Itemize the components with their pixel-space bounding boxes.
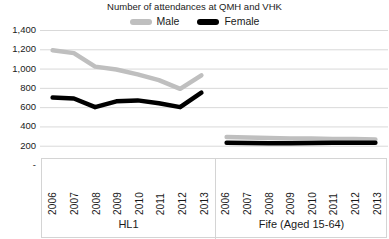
- x-axis-tick-label: 2012: [177, 192, 188, 215]
- x-axis-tick-label: 2008: [264, 192, 275, 215]
- x-axis-tick: 2007: [64, 159, 86, 215]
- y-axis-tick-label: 1,200: [12, 44, 36, 54]
- legend-swatch-female-icon: [197, 19, 219, 25]
- x-axis-tick: 2010: [302, 159, 324, 215]
- chart-legend: Male Female: [0, 15, 389, 28]
- x-axis-year-row: 20062007200820092010201120122013: [42, 159, 215, 215]
- x-axis-tick-label: 2007: [242, 192, 253, 215]
- x-axis-tick: 2007: [237, 159, 259, 215]
- x-axis-tick: 2009: [280, 159, 302, 215]
- x-axis-tick: 2006: [42, 159, 64, 215]
- legend-label-female: Female: [224, 15, 259, 28]
- x-axis-year-row: 20062007200820092010201120122013: [215, 159, 388, 215]
- x-axis-tick-label: 2010: [307, 192, 318, 215]
- x-axis-tick-label: 2006: [47, 192, 58, 215]
- x-axis-tick-label: 2013: [199, 192, 210, 215]
- x-axis-tick: 2013: [366, 159, 388, 215]
- legend-item-female[interactable]: Female: [197, 15, 259, 28]
- x-axis-tick: 2011: [323, 159, 345, 215]
- x-axis-tick-label: 2010: [134, 192, 145, 215]
- y-axis-tick-label: -: [33, 160, 36, 170]
- x-axis-label-box: 20062007200820092010201120122013HL120062…: [41, 158, 387, 238]
- legend-swatch-male-icon: [130, 19, 152, 25]
- x-axis-tick-label: 2007: [69, 192, 80, 215]
- chart-title: Number of attendances at QMH and VHK: [0, 1, 389, 13]
- x-axis-tick: 2011: [150, 159, 172, 215]
- y-axis-tick-label: 800: [20, 83, 36, 93]
- x-axis-group-label: Fife (Aged 15-64): [215, 217, 388, 231]
- y-axis-tick-label: 1,000: [12, 64, 36, 74]
- y-axis-tick-label: 200: [20, 141, 36, 151]
- x-axis-group-divider: [215, 159, 216, 239]
- x-axis-tick-label: 2012: [350, 192, 361, 215]
- series-line-female-fife-aged-15-64: [227, 143, 376, 144]
- x-axis-tick-label: 2009: [285, 192, 296, 215]
- plot-area: [40, 30, 388, 165]
- legend-label-male: Male: [157, 15, 180, 28]
- x-axis-group: 20062007200820092010201120122013Fife (Ag…: [215, 159, 388, 239]
- x-axis-tick: 2012: [345, 159, 367, 215]
- x-axis-tick: 2008: [258, 159, 280, 215]
- series-line-female-hl1: [53, 93, 202, 107]
- x-axis-tick-label: 2008: [91, 192, 102, 215]
- y-axis-tick-labels: 1,4001,2001,000800600400200-: [0, 0, 40, 239]
- x-axis-tick-label: 2013: [372, 192, 383, 215]
- x-axis-tick: 2013: [193, 159, 215, 215]
- series-line-male-fife-aged-15-64: [227, 137, 376, 139]
- x-axis-tick-label: 2011: [328, 193, 339, 215]
- chart-container: Number of attendances at QMH and VHK Mal…: [0, 0, 389, 239]
- x-axis-group-label: HL1: [42, 217, 215, 231]
- x-axis-tick-label: 2006: [220, 192, 231, 215]
- x-axis-tick: 2009: [107, 159, 129, 215]
- x-axis-tick: 2012: [172, 159, 194, 215]
- x-axis-tick: 2006: [215, 159, 237, 215]
- y-axis-tick-label: 1,400: [12, 25, 36, 35]
- x-axis-tick-label: 2009: [112, 192, 123, 215]
- x-axis-tick: 2008: [85, 159, 107, 215]
- y-axis-tick-label: 400: [20, 121, 36, 131]
- x-axis-tick: 2010: [129, 159, 151, 215]
- legend-item-male[interactable]: Male: [130, 15, 180, 28]
- plot-svg: [40, 30, 388, 165]
- x-axis-group: 20062007200820092010201120122013HL1: [42, 159, 215, 239]
- y-axis-tick-label: 600: [20, 102, 36, 112]
- x-axis-tick-label: 2011: [155, 193, 166, 215]
